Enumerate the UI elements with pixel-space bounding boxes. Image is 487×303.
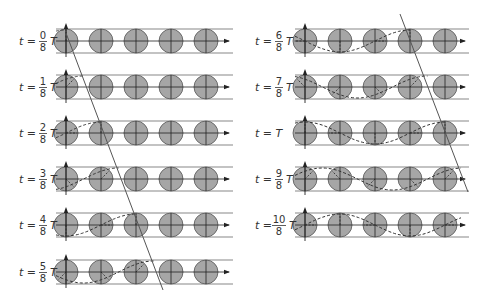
- wave-orbit-diagram: t =08Tt =18Tt =28Tt =38Tt =48Tt =58T t =…: [0, 0, 487, 303]
- fraction-numerator: 5: [40, 261, 46, 272]
- time-label-prefix: t =: [19, 266, 36, 279]
- time-label-prefix: t =: [19, 173, 36, 186]
- y-axis-arrow-icon: [303, 115, 307, 121]
- time-label: t =58T: [19, 261, 58, 284]
- y-axis-arrow-icon: [64, 69, 68, 75]
- time-label: t =28T: [19, 122, 58, 145]
- time-label: t =78T: [255, 76, 294, 99]
- fraction-denominator: 8: [276, 226, 282, 237]
- time-label-prefix: t =: [255, 81, 272, 94]
- fraction-numerator: 2: [40, 122, 46, 133]
- fraction-numerator: 3: [40, 168, 46, 179]
- x-axis-arrow-icon: [224, 223, 230, 227]
- time-row: t =78T: [255, 69, 469, 103]
- time-label-prefix: t =: [19, 219, 36, 232]
- time-label-prefix: t =: [255, 219, 272, 232]
- x-axis-arrow-icon: [224, 270, 230, 274]
- time-row: t =98T: [255, 161, 469, 195]
- fraction-denominator: 8: [40, 226, 46, 237]
- fraction-numerator: 7: [276, 76, 282, 87]
- time-label: t =38T: [19, 168, 58, 191]
- y-axis-arrow-icon: [64, 207, 68, 213]
- y-axis-arrow-icon: [303, 161, 307, 167]
- y-axis-arrow-icon: [64, 115, 68, 121]
- fraction-denominator: 8: [276, 88, 282, 99]
- fraction-numerator: 0: [40, 30, 46, 41]
- x-axis-arrow-icon: [224, 39, 230, 43]
- fraction-numerator: 4: [40, 214, 46, 225]
- y-axis-arrow-icon: [303, 23, 307, 29]
- y-axis-arrow-icon: [64, 161, 68, 167]
- fraction-denominator: 8: [276, 42, 282, 53]
- time-row: t =18T: [19, 69, 233, 103]
- time-label-prefix: t =: [19, 127, 36, 140]
- x-axis-arrow-icon: [224, 85, 230, 89]
- fraction-denominator: 8: [40, 42, 46, 53]
- time-label-prefix: t =: [255, 173, 272, 186]
- time-row: t =28T: [19, 115, 233, 149]
- left-column: t =08Tt =18Tt =28Tt =38Tt =48Tt =58T: [19, 23, 233, 290]
- time-label: t =98T: [255, 168, 294, 191]
- right-column: t =68Tt =78Tt = Tt =98Tt =108T: [255, 14, 469, 241]
- y-axis-arrow-icon: [303, 207, 307, 213]
- time-row: t =38T: [19, 161, 233, 195]
- x-axis-arrow-icon: [224, 131, 230, 135]
- fraction-denominator: 8: [40, 180, 46, 191]
- fraction-numerator: 9: [276, 168, 282, 179]
- time-label: t =48T: [19, 214, 58, 237]
- time-label-prefix: t =: [19, 81, 36, 94]
- time-label-prefix: t = T: [255, 127, 284, 140]
- time-label: t =18T: [19, 76, 58, 99]
- y-axis-arrow-icon: [64, 23, 68, 29]
- wave-front-line: [66, 33, 163, 290]
- time-label: t =68T: [255, 30, 294, 53]
- fraction-denominator: 8: [276, 180, 282, 191]
- time-label: t = T: [255, 127, 284, 140]
- time-label: t =08T: [19, 30, 58, 53]
- time-row: t = T: [255, 115, 469, 149]
- time-row: t =08T: [19, 23, 233, 57]
- time-row: t =108T: [255, 207, 469, 241]
- x-axis-arrow-icon: [460, 131, 466, 135]
- fraction-denominator: 8: [40, 273, 46, 284]
- fraction-denominator: 8: [40, 88, 46, 99]
- x-axis-arrow-icon: [460, 223, 466, 227]
- fraction-numerator: 10: [273, 214, 286, 225]
- fraction-numerator: 1: [40, 76, 46, 87]
- time-row: t =58T: [19, 254, 233, 288]
- y-axis-arrow-icon: [303, 69, 307, 75]
- x-axis-arrow-icon: [460, 39, 466, 43]
- time-row: t =48T: [19, 207, 233, 241]
- time-row: t =68T: [255, 23, 469, 57]
- fraction-denominator: 8: [40, 134, 46, 145]
- time-label-prefix: t =: [255, 35, 272, 48]
- y-axis-arrow-icon: [64, 254, 68, 260]
- x-axis-arrow-icon: [460, 85, 466, 89]
- x-axis-arrow-icon: [224, 177, 230, 181]
- fraction-numerator: 6: [276, 30, 282, 41]
- time-label-prefix: t =: [19, 35, 36, 48]
- time-label: t =108T: [255, 214, 297, 237]
